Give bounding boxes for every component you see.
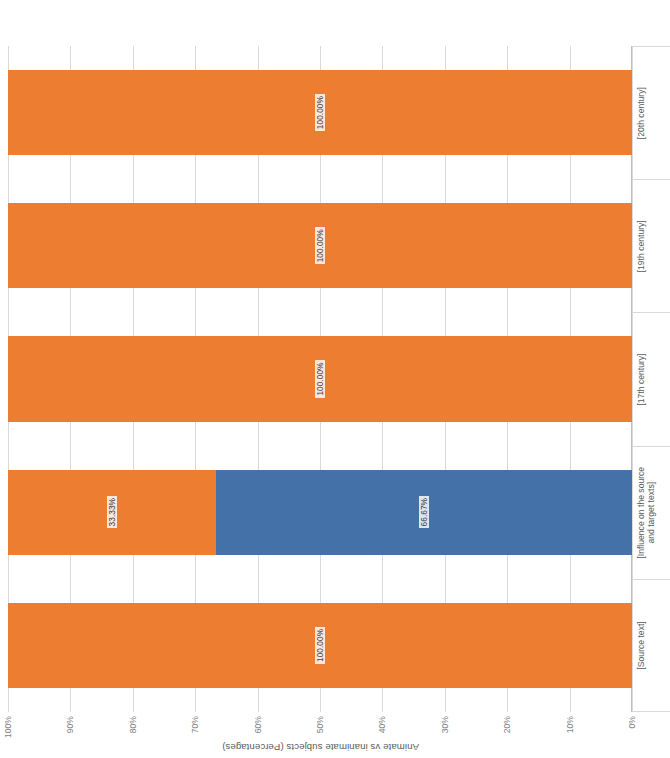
y-axis-tick-20: 20% [502,716,512,733]
category-bracket-text: [20th century] [636,87,646,139]
category-bracket-text: [Influence on the source and target text… [636,467,656,559]
bar-column[interactable]: 0.00%100.00% [8,603,632,688]
y-axis-tick-100: 100% [3,716,13,738]
category-axis-labels: [Source text]Koine Greek New Testament[I… [632,46,670,712]
y-axis-title-text: Animate vs inanimate subjects (Percentag… [222,743,419,754]
y-axis-tick-80: 80% [128,716,138,733]
bar-column[interactable]: 0.00%100.00% [8,70,632,155]
bar-segment[interactable]: 66.67% [216,470,632,555]
data-label: 66.67% [419,496,429,528]
category-bracket-text: [Source text] [636,621,646,669]
bar-segment[interactable]: 100.00% [8,70,632,155]
bar-segment[interactable]: 100.00% [8,603,632,688]
bar-column[interactable]: 0.00%100.00% [8,336,632,421]
plot-area: 0.00%100.00%66.67%33.33%0.00%100.00%0.00… [8,46,632,712]
category-label-cell: [20th century]Today's Greek Version [633,46,670,179]
category-bracket-text: [17th century] [636,353,646,405]
category-bracket-text: [19th century] [636,220,646,272]
y-axis-tick-0: 0% [627,716,637,728]
bar-column[interactable]: 66.67%33.33% [8,470,632,555]
data-label: 33.33% [107,496,117,528]
bar-segment[interactable]: 100.00% [8,336,632,421]
category-label-cell: [17th century]Kallipolitis' New Testamen… [633,312,670,445]
bar-segment[interactable]: 33.33% [8,470,216,555]
y-axis-tick-70: 70% [190,716,200,733]
category-label-cell: [Influence on the source and target text… [633,446,670,579]
y-axis-tick-60: 60% [253,716,263,733]
y-axis-tick-90: 90% [65,716,75,733]
y-axis-tick-labels: 100%90%80%70%60%50%40%30%20%10%0% [0,714,640,740]
y-axis-tick-40: 40% [377,716,387,733]
y-axis-tick-50: 50% [315,716,325,733]
data-label: 100.00% [315,360,325,397]
y-axis-tick-30: 30% [440,716,450,733]
bar-segment[interactable]: 100.00% [8,203,632,288]
category-label-cell: [Source text]Koine Greek New Testament [633,579,670,712]
category-label-cell: [19th century]Varnvas' New Testament [633,179,670,312]
y-axis-tick-10: 10% [565,716,575,733]
y-axis-title: Animate vs inanimate subjects (Percentag… [0,740,640,756]
data-label: 100.00% [315,227,325,264]
data-label: 100.00% [315,627,325,664]
bar-column[interactable]: 0.00%100.00% [8,203,632,288]
data-label: 100.00% [315,94,325,131]
